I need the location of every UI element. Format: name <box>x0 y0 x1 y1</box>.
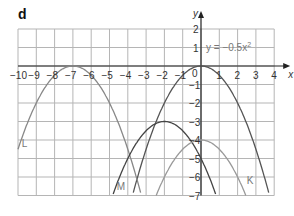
x-tick-label: −10 <box>10 70 27 81</box>
y-axis-label: y <box>192 8 199 19</box>
x-axis-label: x <box>287 69 294 80</box>
y-tick-label: 2 <box>193 24 199 35</box>
y-tick-label: −3 <box>189 117 201 128</box>
x-tick-label: −2 <box>156 70 168 81</box>
x-tick-label: 1 <box>216 70 222 81</box>
parabola-chart: xy −10−9−8−7−6−5−4−3−2−1123421−1−2−3−4−5… <box>0 0 294 216</box>
y-tick-label: −4 <box>189 135 201 146</box>
x-tick-label: −7 <box>65 70 77 81</box>
x-tick-label: −6 <box>83 70 95 81</box>
x-tick-label: −8 <box>47 70 59 81</box>
y-tick-label: −1 <box>189 80 201 91</box>
x-tick-label: 2 <box>235 70 241 81</box>
axes: xy <box>18 8 294 196</box>
curve-label: M <box>117 181 125 192</box>
grid <box>18 29 274 196</box>
y-tick-label: −7 <box>189 191 201 202</box>
x-tick-label: −1 <box>175 70 187 81</box>
x-tick-label: 4 <box>271 70 277 81</box>
curve-label: y = −0.5x2 <box>206 41 251 53</box>
curve-label: K <box>247 175 254 186</box>
y-tick-label: −6 <box>189 172 201 183</box>
curves <box>18 66 269 196</box>
y-axis-arrow-icon <box>198 11 204 18</box>
curve-label: L <box>22 138 28 149</box>
x-tick-label: −4 <box>120 70 132 81</box>
origin-label: 0 <box>192 68 198 79</box>
x-tick-label: −9 <box>28 70 40 81</box>
x-tick-label: −5 <box>102 70 114 81</box>
y-tick-label: −5 <box>189 154 201 165</box>
x-tick-label: 3 <box>253 70 259 81</box>
y-tick-label: 1 <box>193 43 199 54</box>
x-tick-label: −3 <box>138 70 150 81</box>
y-tick-label: −2 <box>189 98 201 109</box>
